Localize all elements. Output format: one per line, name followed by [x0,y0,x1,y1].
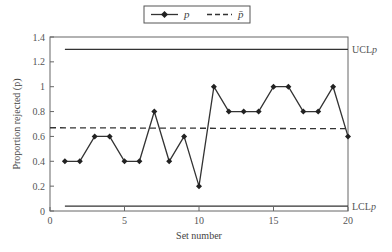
diamond-marker-icon [300,109,306,115]
diamond-marker-icon [196,183,202,189]
diamond-marker-icon [226,109,232,115]
legend-label-pbar: p̄ [237,8,244,20]
diamond-marker-icon [271,84,277,90]
legend-label-p: p [183,8,190,20]
x-tick-label: 15 [269,215,279,226]
diamond-marker-icon [181,133,187,139]
y-tick-label: 1 [40,81,45,92]
diamond-marker-icon [151,109,157,115]
y-tick-label: 0 [40,206,45,217]
lcl-label: LCLp [352,201,376,212]
diamond-marker-icon [256,109,262,115]
ucl-label: UCLp [352,44,377,55]
y-tick-label: 0.4 [33,156,46,167]
control-chart: p p̄ 00.20.40.60.811.21.4 05101520 Propo… [0,0,392,252]
diamond-marker-icon [62,158,68,164]
diamond-marker-icon [92,133,98,139]
y-tick-label: 1.4 [33,32,46,43]
y-tick-label: 0.8 [33,106,46,117]
x-tick-label: 20 [343,215,353,226]
diamond-marker-icon [107,133,113,139]
x-axis: 05101520 [48,207,354,226]
x-axis-title: Set number [176,230,222,241]
diamond-marker-icon [77,158,83,164]
diamond-marker-icon [136,158,142,164]
diamond-marker-icon [211,84,217,90]
y-tick-label: 0.6 [33,131,46,142]
legend: p p̄ [144,6,250,23]
diamond-marker-icon [330,84,336,90]
data-series [62,84,351,189]
x-tick-label: 0 [48,215,53,226]
diamond-marker-icon [166,158,172,164]
y-tick-label: 1.2 [33,56,46,67]
x-tick-label: 5 [122,215,127,226]
diamond-marker-icon [315,109,321,115]
diamond-marker-icon [241,109,247,115]
y-tick-label: 0.2 [33,181,46,192]
control-limits: UCLpLCLp [50,44,377,212]
y-axis: 00.20.40.60.811.21.4 [33,32,55,217]
pbar-line [50,128,348,129]
diamond-marker-icon [285,84,291,90]
diamond-marker-icon [345,133,351,139]
y-axis-title: Proportion rejected (p) [11,78,23,169]
x-tick-label: 10 [194,215,204,226]
diamond-marker-icon [122,158,128,164]
